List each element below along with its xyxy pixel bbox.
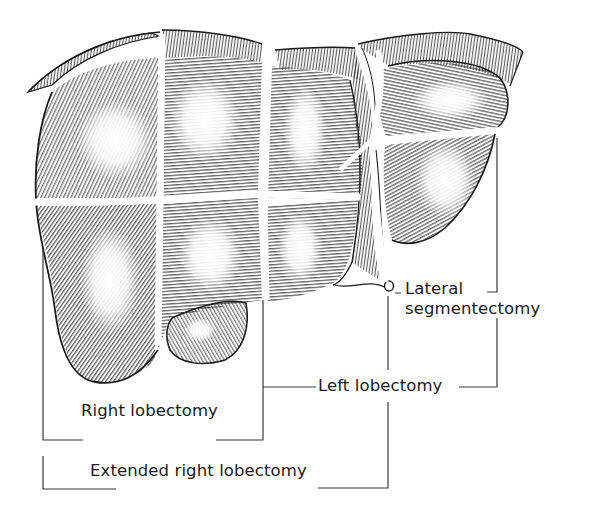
liver-resection-diagram: Lateral segmentectomy Left lobectomy Rig… [0, 0, 593, 522]
liver-illustration [0, 0, 593, 522]
label-right-lobectomy: Right lobectomy [81, 403, 218, 420]
left-lateral-segment [378, 61, 508, 244]
label-left-lobectomy: Left lobectomy [318, 378, 442, 395]
medial-segment [268, 66, 362, 302]
label-lateral: Lateral [405, 281, 463, 298]
ligamentum-teres [385, 281, 394, 291]
label-extended-right-lobectomy: Extended right lobectomy [90, 463, 307, 480]
label-segmentectomy: segmentectomy [405, 301, 540, 318]
